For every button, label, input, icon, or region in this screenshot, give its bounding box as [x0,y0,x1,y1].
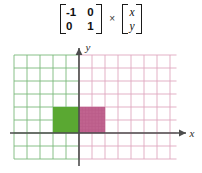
vector-cell-x: x [128,5,136,19]
x-axis-label: x [189,127,195,139]
matrix-cell-r1c2: 0 [87,5,96,19]
preimage-rectangle [53,107,79,133]
matrix-grid: -1 0 0 1 [66,5,96,33]
coordinate-plane: x y [0,38,202,173]
multiplication-operator: × [109,12,115,26]
coordinate-vector: x y [122,4,142,34]
vector-grid: x y [128,5,136,33]
y-axis-arrow [76,48,83,55]
matrix-cell-r2c2: 1 [87,19,96,33]
matrix-cell-r2c1: 0 [66,19,76,33]
x-axis-arrow [179,130,186,137]
matrix-equation: -1 0 0 1 × x y [0,0,202,38]
vector-cell-y: y [128,19,136,33]
y-axis-label: y [85,41,91,53]
matrix-cell-r1c1: -1 [66,5,76,19]
transformation-matrix: -1 0 0 1 [60,4,102,34]
transformation-figure: -1 0 0 1 × x y [0,0,202,173]
